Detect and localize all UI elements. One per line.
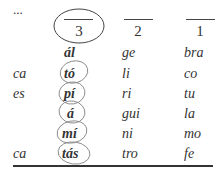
- cell-r4-c3: mí: [62, 126, 77, 142]
- cell-r5-c1: fe: [184, 146, 194, 162]
- cell-r0-c3: ál: [64, 45, 75, 61]
- header-overline-3: [64, 19, 93, 20]
- cell-r1-c2: li: [122, 66, 130, 82]
- cell-r0-c2: ge: [122, 45, 135, 61]
- cell-r5-c0: ca: [13, 146, 26, 162]
- cell-r1-c1: co: [184, 66, 197, 82]
- cell-r5-c3: tás: [62, 146, 78, 162]
- header-ellipsis: ...: [13, 2, 23, 18]
- cell-r2-c2: ri: [122, 86, 131, 102]
- header-overline-2: [124, 19, 153, 20]
- cell-r3-c2: gui: [122, 106, 140, 122]
- cell-r2-c3: pí: [64, 86, 75, 102]
- cell-r5-c2: tro: [122, 146, 138, 162]
- cell-r3-c3: á: [67, 106, 74, 122]
- cell-r3-c1: la: [184, 106, 195, 122]
- cell-r1-c3: tó: [64, 66, 75, 82]
- cell-r1-c0: ca: [13, 66, 26, 82]
- cell-r2-c1: tu: [184, 86, 195, 102]
- header-overline-1: [186, 19, 215, 20]
- bottom-rule: [13, 165, 213, 167]
- header-2: 2: [118, 23, 158, 40]
- header-3: 3: [59, 23, 99, 40]
- cell-r4-c2: ni: [122, 126, 133, 142]
- cell-r4-c1: mo: [184, 126, 201, 142]
- header-1: 1: [180, 23, 220, 40]
- cell-r2-c0: es: [13, 86, 25, 102]
- cell-r0-c1: bra: [184, 45, 203, 61]
